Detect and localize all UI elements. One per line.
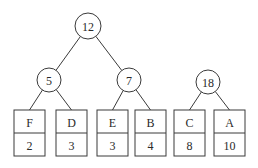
node-weight: 5 [46,74,52,88]
leaf-node-a: A10 [214,110,245,156]
huffman-tree-diagram: F2D3E3B4C8A10 125718 [0,0,258,168]
leaf-symbol: D [67,116,76,130]
leaf-weight: 3 [69,139,75,153]
internal-node-5: 5 [37,68,61,92]
leaf-node-b: B4 [135,110,166,156]
tree-edge [113,91,124,110]
leaf-weight: 2 [27,139,33,153]
internal-node-12: 12 [75,13,101,39]
leaf-nodes: F2D3E3B4C8A10 [14,110,245,156]
leaf-weight: 4 [148,139,154,153]
leaf-symbol: A [225,116,234,130]
leaf-weight: 10 [224,139,236,153]
tree-edge [30,90,43,110]
tree-edge [56,37,80,71]
leaf-symbol: E [109,116,116,130]
tree-edge [96,36,122,70]
leaf-symbol: C [185,116,193,130]
internal-node-18: 18 [196,70,220,94]
leaf-weight: 3 [110,139,116,153]
node-weight: 18 [202,76,214,90]
tree-edge [56,90,71,110]
leaf-node-c: C8 [174,110,205,156]
leaf-node-e: E3 [97,110,128,156]
internal-nodes: 125718 [37,13,220,94]
leaf-weight: 8 [187,139,193,153]
leaf-symbol: F [26,116,33,130]
leaf-node-d: D3 [56,110,87,156]
tree-edge [190,92,202,110]
leaf-symbol: B [146,116,154,130]
tree-edge [215,92,229,110]
node-weight: 7 [126,74,132,88]
leaf-node-f: F2 [14,110,45,156]
tree-edge [136,90,151,110]
internal-node-7: 7 [117,68,141,92]
node-weight: 12 [82,20,94,34]
